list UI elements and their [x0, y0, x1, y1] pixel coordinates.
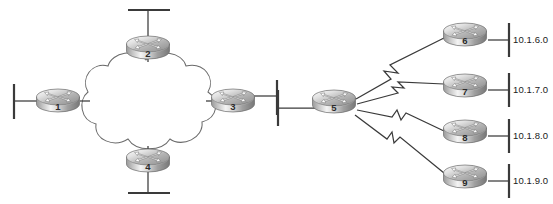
network-label-10-1-9-0: 10.1.9.0 [513, 175, 548, 186]
network-label-10-1-6-0: 10.1.6.0 [513, 34, 548, 45]
serial-link-5-9 [355, 115, 444, 173]
router-8-label: 8 [462, 132, 467, 143]
lan-segment-router5 [278, 90, 316, 126]
router-2[interactable]: 2 [127, 36, 170, 59]
router-5[interactable]: 5 [313, 90, 356, 113]
router-3[interactable]: 3 [212, 89, 255, 112]
router-6[interactable]: 6 [444, 23, 487, 46]
router-4-label: 4 [145, 161, 151, 172]
router-6-label: 6 [462, 35, 467, 46]
router-9[interactable]: 9 [444, 165, 487, 188]
serial-link-5-7 [357, 82, 444, 104]
serial-link-5-6 [356, 38, 444, 99]
router-5-label: 5 [331, 102, 337, 113]
router-9-label: 9 [462, 177, 467, 188]
router-1[interactable]: 1 [37, 89, 80, 112]
router-7-label: 7 [462, 86, 467, 97]
router-7[interactable]: 7 [444, 74, 487, 97]
wan-cloud [82, 53, 216, 149]
router-3-label: 3 [230, 101, 235, 112]
serial-links-group [355, 38, 444, 173]
network-label-10-1-8-0: 10.1.8.0 [513, 130, 548, 141]
serial-link-5-8 [357, 110, 444, 131]
router-4[interactable]: 4 [127, 149, 170, 172]
lan-segments-right: 10.1.6.0 10.1.7.0 10.1.8.0 10.1.9.0 [488, 23, 548, 198]
router-1-label: 1 [55, 101, 61, 112]
router-2-label: 2 [145, 48, 150, 59]
network-diagram: 10.1.6.0 10.1.7.0 10.1.8.0 10.1.9.0 1 2 [0, 0, 553, 204]
diagram-canvas: 10.1.6.0 10.1.7.0 10.1.8.0 10.1.9.0 1 2 [0, 0, 553, 204]
wan-cloud-group [82, 53, 216, 149]
network-label-10-1-7-0: 10.1.7.0 [513, 84, 548, 95]
router-8[interactable]: 8 [444, 120, 487, 143]
